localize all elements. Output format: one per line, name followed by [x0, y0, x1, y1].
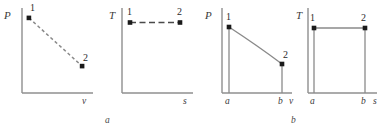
panel-3-pv-solid: P v 1 2 a b: [204, 8, 294, 106]
panel-3-tick-label-a: a: [225, 96, 230, 106]
panel-1-point-label-1: 1: [30, 2, 35, 13]
panel-4-point-label-2: 2: [361, 12, 366, 23]
panel-2-point-1-marker: [128, 20, 133, 25]
panel-1-process-line: [29, 18, 82, 66]
panel-4-point-2-marker: [363, 26, 368, 31]
panel-1-point-label-2: 2: [83, 52, 88, 63]
panel-1-pv-dashed: P v 1 2: [3, 2, 93, 106]
panel-2-point-label-1: 1: [127, 6, 132, 17]
panel-2-ts-dashed: T s 1 2: [109, 6, 193, 106]
figure-caption-b: b: [291, 115, 296, 125]
panel-3-tick-label-b: b: [278, 96, 283, 106]
panel-3-point-2-marker: [280, 62, 285, 67]
panel-1-y-axis-label: P: [3, 9, 11, 21]
panel-3-process-curve: [229, 27, 282, 64]
panel-2-point-label-2: 2: [177, 6, 182, 17]
panel-4-ts-solid: T s 1 2 a b: [296, 8, 377, 106]
panel-2-x-axis-label: s: [183, 96, 187, 106]
panel-1-point-1-marker: [27, 16, 32, 21]
panel-4-point-1-marker: [312, 26, 317, 31]
panel-1-point-2-marker: [80, 64, 85, 69]
panel-1-x-axis-label: v: [82, 96, 87, 106]
panel-2-y-axis-label: T: [109, 9, 116, 21]
panel-4-y-axis-label: T: [296, 9, 303, 21]
figure-caption-a: a: [105, 115, 110, 125]
thermodynamic-pv-ts-figure: P v 1 2 T s 1 2: [0, 0, 385, 129]
panel-4-x-axis-label: s: [373, 96, 377, 106]
panel-3-point-1-marker: [227, 25, 232, 30]
panel-3-point-label-2: 2: [283, 49, 288, 60]
panel-3-y-axis-label: P: [204, 9, 212, 21]
panel-3-point-label-1: 1: [226, 11, 231, 22]
panel-4-tick-label-b: b: [361, 96, 366, 106]
panel-2-point-2-marker: [178, 20, 183, 25]
panel-3-x-axis-label: v: [289, 96, 294, 106]
panel-4-tick-label-a: a: [310, 96, 315, 106]
figure-canvas: P v 1 2 T s 1 2: [0, 0, 385, 129]
panel-4-point-label-1: 1: [310, 12, 315, 23]
